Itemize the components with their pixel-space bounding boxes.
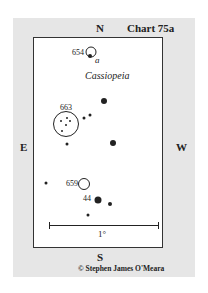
chart-title: Chart 75a	[127, 22, 174, 34]
star-icon	[83, 117, 86, 120]
star-icon	[60, 120, 62, 122]
label-654: 654	[72, 48, 84, 57]
star-icon	[108, 202, 112, 206]
credit-text: © Stephen James O'Meara	[78, 264, 164, 273]
label-alpha: a	[95, 55, 100, 65]
label-659: 659	[66, 179, 78, 188]
south-label: S	[97, 251, 103, 263]
star-field	[33, 37, 163, 248]
east-label: E	[20, 141, 27, 153]
west-label: W	[176, 141, 187, 153]
star-icon	[65, 124, 67, 126]
scale-label: 1°	[98, 229, 106, 239]
star-icon	[69, 120, 71, 122]
scale-tick-left	[49, 222, 50, 229]
star-icon	[66, 143, 69, 146]
star-icon	[45, 182, 48, 185]
star-icon	[61, 130, 63, 132]
star-icon	[101, 98, 107, 104]
star-icon	[95, 197, 102, 204]
cluster-659-circle	[78, 178, 90, 190]
constellation-name: Cassiopeia	[85, 70, 129, 81]
label-44: 44	[83, 194, 91, 203]
star-icon	[66, 117, 68, 119]
star-icon	[89, 114, 92, 117]
star-icon	[87, 214, 90, 217]
star-icon	[88, 54, 92, 58]
scale-bar	[49, 225, 159, 226]
star-icon	[110, 140, 116, 146]
north-label: N	[96, 22, 104, 34]
scale-tick-right	[158, 222, 159, 229]
